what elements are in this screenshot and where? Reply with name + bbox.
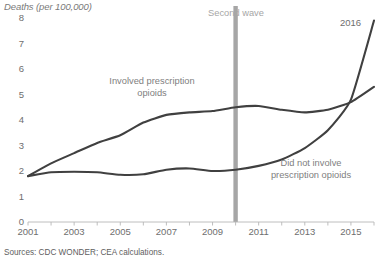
- x-tick-label: 2005: [110, 226, 131, 237]
- did-not-involve-prescription-opioids-label: Did not involve prescription opioids: [250, 158, 372, 181]
- chart-figure: Deaths (per 100,000) 8 7 6 5 4 3 2 1 0 2…: [0, 0, 380, 269]
- note-text: [4, 258, 378, 265]
- chart-canvas: [28, 18, 374, 222]
- annot-line-1: Involved prescription: [88, 76, 216, 88]
- chart-axis-title: Deaths (per 100,000): [4, 1, 92, 12]
- second-wave-bar: [233, 6, 237, 222]
- annot-line-2: prescription opioids: [250, 170, 372, 182]
- chart-footer: Sources: CDC WONDER; CEA calculations.: [4, 248, 378, 265]
- y-tick-label: 4: [4, 115, 24, 125]
- x-tick-label: 2003: [64, 226, 85, 237]
- x-tick-label: 2015: [340, 226, 361, 237]
- y-tick-label: 7: [4, 39, 24, 49]
- second-wave-marker: [233, 6, 237, 222]
- x-axis: 20012003200520072009201120132015: [28, 226, 374, 242]
- x-tick-label: 2007: [156, 226, 177, 237]
- involved-prescription-opioids-label: Involved prescription opioids: [88, 76, 216, 99]
- plot-area: [28, 18, 374, 222]
- y-tick-label: 8: [4, 13, 24, 23]
- y-tick-label: 1: [4, 192, 24, 202]
- x-tick-label: 2011: [248, 226, 268, 237]
- y-tick-label: 6: [4, 64, 24, 74]
- y-axis: 8 7 6 5 4 3 2 1 0: [0, 18, 24, 222]
- second-wave-label: Second wave: [190, 8, 282, 20]
- sources-text: Sources: CDC WONDER; CEA calculations.: [4, 248, 378, 258]
- y-tick-label: 3: [4, 141, 24, 151]
- axis-lines: [28, 222, 374, 226]
- annot-line-1: Did not involve: [250, 158, 372, 170]
- y-tick-label: 2: [4, 166, 24, 176]
- x-tick-label: 2001: [17, 226, 38, 237]
- annot-line-2: opioids: [88, 88, 216, 100]
- x-tick-label: 2013: [294, 226, 315, 237]
- y-tick-label: 5: [4, 90, 24, 100]
- x-tick-label: 2009: [202, 226, 223, 237]
- end-year-label: 2016: [340, 17, 361, 28]
